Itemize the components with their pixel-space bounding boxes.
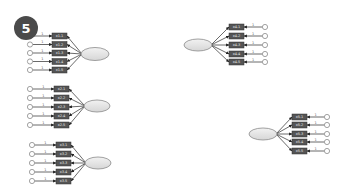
error-term-circle[interactable] — [27, 113, 32, 118]
path-weight-label: 1 — [42, 94, 44, 98]
factor-loading-arrow — [276, 117, 292, 134]
factor-loading-arrow — [211, 36, 229, 45]
error-term-circle[interactable] — [29, 151, 34, 156]
latent-factor-ellipse[interactable] — [81, 48, 109, 61]
error-term-circle[interactable] — [29, 142, 34, 147]
observed-variable-label: x1.1 — [56, 34, 64, 38]
error-term-circle[interactable] — [27, 42, 32, 47]
path-weight-label: 1 — [315, 147, 317, 151]
path-weight-label: 1 — [315, 113, 317, 117]
observed-variable-label: x3.3 — [60, 161, 68, 165]
latent-factor-ellipse[interactable] — [184, 39, 212, 51]
observed-variable-label: x5.4 — [296, 140, 304, 144]
factor-loading-arrow — [276, 134, 292, 142]
factor-loading-arrow — [71, 163, 86, 181]
factor-loading-arrow — [211, 45, 229, 62]
factor-loading-arrow — [67, 53, 82, 54]
factor-loading-arrow — [69, 106, 85, 107]
observed-variable-label: x2.2 — [58, 96, 66, 100]
observed-variable-label: x1.5 — [56, 68, 64, 72]
path-weight-label: 1 — [44, 150, 46, 154]
error-term-circle[interactable] — [27, 95, 32, 100]
error-term-circle[interactable] — [27, 122, 32, 127]
error-term-circle[interactable] — [29, 178, 34, 183]
factor-loading-arrow — [69, 98, 85, 106]
path-weight-label: 1 — [42, 121, 44, 125]
observed-variable-label: x4.2 — [233, 34, 241, 38]
path-weight-label: 1 — [41, 40, 43, 44]
error-term-circle[interactable] — [262, 24, 267, 29]
observed-variable-label: x3.4 — [60, 170, 68, 174]
observed-variable-label: x5.1 — [296, 115, 304, 119]
step-badge: 5 — [14, 16, 38, 40]
latent-factor-ellipse[interactable] — [84, 100, 110, 112]
factor-loading-arrow — [276, 134, 292, 151]
error-term-circle[interactable] — [27, 67, 32, 72]
path-weight-label: 1 — [42, 112, 44, 116]
error-term-circle[interactable] — [27, 104, 32, 109]
error-term-circle[interactable] — [262, 42, 267, 47]
factor-loading-arrow — [67, 54, 82, 62]
error-term-circle[interactable] — [27, 50, 32, 55]
error-term-circle[interactable] — [29, 169, 34, 174]
factor-loading-arrow — [211, 27, 229, 45]
error-term-circle[interactable] — [324, 139, 329, 144]
sem-path-diagram: 1x1.11x1.21x1.31x1.41x1.51x2.11x2.21x2.3… — [0, 0, 354, 196]
factor-loading-arrow — [69, 89, 85, 106]
error-term-circle[interactable] — [324, 122, 329, 127]
factor-loading-arrow — [69, 106, 85, 116]
factor-2-group: 1x2.11x2.21x2.31x2.41x2.5 — [27, 85, 110, 129]
observed-variable-label: x2.3 — [58, 105, 66, 109]
error-term-circle[interactable] — [324, 131, 329, 136]
latent-factor-ellipse[interactable] — [85, 157, 111, 169]
observed-variable-label: x3.5 — [60, 179, 68, 183]
error-term-circle[interactable] — [262, 51, 267, 56]
error-term-circle[interactable] — [29, 160, 34, 165]
factor-loading-arrow — [69, 106, 85, 125]
diagram-canvas: 1x1.11x1.21x1.31x1.41x1.51x2.11x2.21x2.3… — [0, 0, 354, 196]
error-term-circle[interactable] — [27, 86, 32, 91]
error-term-circle[interactable] — [262, 33, 267, 38]
path-weight-label: 1 — [41, 66, 43, 70]
error-term-circle[interactable] — [324, 114, 329, 119]
path-weight-label: 1 — [315, 138, 317, 142]
path-weight-label: 1 — [41, 32, 43, 36]
factor-loading-arrow — [67, 54, 82, 70]
observed-variable-label: x1.2 — [56, 43, 64, 47]
factor-groups: 1x1.11x1.21x1.31x1.41x1.51x2.11x2.21x2.3… — [27, 23, 329, 185]
step-badge-number: 5 — [21, 21, 30, 36]
path-weight-label: 1 — [41, 49, 43, 53]
observed-variable-label: x4.4 — [233, 52, 241, 56]
factor-loading-arrow — [71, 145, 86, 163]
observed-variable-label: x2.5 — [58, 123, 66, 127]
observed-variable-label: x2.4 — [58, 114, 66, 118]
observed-variable-label: x3.2 — [60, 152, 68, 156]
observed-variable-label: x1.3 — [56, 51, 64, 55]
factor-1-group: 1x1.11x1.21x1.31x1.41x1.5 — [27, 32, 109, 74]
path-weight-label: 1 — [252, 50, 254, 54]
latent-factor-ellipse[interactable] — [249, 128, 277, 140]
error-term-circle[interactable] — [324, 148, 329, 153]
path-weight-label: 1 — [42, 103, 44, 107]
path-weight-label: 1 — [252, 58, 254, 62]
path-weight-label: 1 — [252, 23, 254, 27]
path-weight-label: 1 — [44, 168, 46, 172]
factor-loading-arrow — [71, 163, 86, 172]
factor-4-group: 1x4.11x4.21x4.31x4.41x4.5 — [184, 23, 268, 66]
path-weight-label: 1 — [252, 32, 254, 36]
path-weight-label: 1 — [252, 41, 254, 45]
observed-variable-label: x4.3 — [233, 43, 241, 47]
observed-variable-label: x1.4 — [56, 60, 64, 64]
factor-loading-arrow — [67, 36, 82, 54]
factor-loading-arrow — [71, 154, 86, 163]
factor-5-group: 1x5.11x5.21x5.31x5.41x5.5 — [249, 113, 330, 155]
error-term-circle[interactable] — [27, 59, 32, 64]
factor-loading-arrow — [211, 45, 229, 54]
factor-loading-arrow — [276, 125, 292, 134]
observed-variable-label: x4.5 — [233, 60, 241, 64]
error-term-circle[interactable] — [262, 59, 267, 64]
factor-3-group: 1x3.11x3.21x3.31x3.41x3.5 — [29, 141, 111, 185]
observed-variable-label: x2.1 — [58, 87, 66, 91]
observed-variable-label: x4.1 — [233, 25, 241, 29]
path-weight-label: 1 — [44, 141, 46, 145]
